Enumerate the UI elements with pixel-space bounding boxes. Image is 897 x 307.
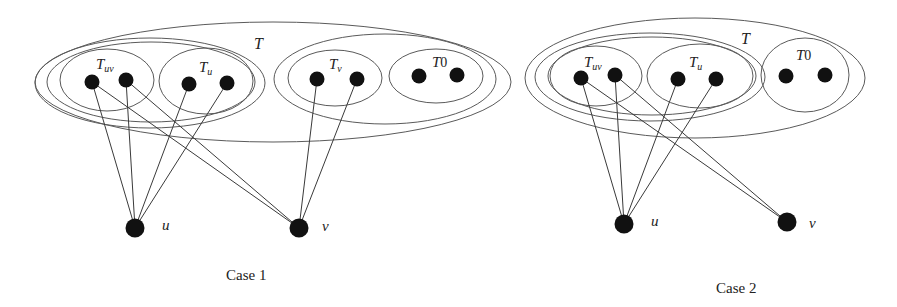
panel-case1: T Tuv Tu Tv T0	[35, 22, 511, 283]
vertex-tuv-2	[608, 68, 623, 83]
group-uv-u-outer-ellipse	[535, 33, 765, 121]
set-T0-label: T0	[432, 54, 447, 70]
caption-case1: Case 1	[226, 267, 266, 283]
diagram-canvas: T Tuv Tu Tv T0	[0, 0, 897, 307]
vertex-v-label: v	[322, 218, 329, 234]
vertex-v	[778, 213, 797, 232]
vertex-tu-2	[709, 72, 724, 87]
vertex-t0-1	[412, 69, 427, 84]
vertex-u	[126, 219, 145, 238]
set-Tuv-ellipse	[60, 49, 154, 111]
vertex-tv-2	[350, 72, 365, 87]
vertex-tuv-1	[85, 75, 100, 90]
set-Tu-ellipse	[159, 48, 253, 114]
edge	[126, 80, 135, 228]
set-Tu-label: Tu	[199, 59, 212, 77]
vertex-v	[290, 219, 309, 238]
set-T0-label: T0	[796, 47, 811, 63]
set-Tu-ellipse	[647, 44, 753, 108]
vertex-v-label: v	[809, 215, 816, 231]
vertex-t0-1	[779, 69, 794, 84]
vertex-tuv-2	[119, 73, 134, 88]
caption-case2: Case 2	[716, 280, 756, 296]
edge	[581, 78, 787, 222]
panel-case2: T Tuv Tu T0 u v Case 2	[525, 18, 865, 296]
vertex-tv-1	[310, 72, 325, 87]
vertex-t0-2	[450, 68, 465, 83]
vertex-u-label: u	[162, 217, 170, 233]
vertex-u-label: u	[651, 213, 659, 229]
edge	[615, 75, 624, 224]
set-T-label: T	[741, 30, 751, 47]
vertex-tu-2	[220, 76, 235, 91]
vertex-u	[615, 215, 634, 234]
vertex-tuv-1	[574, 71, 589, 86]
set-Tv-label: Tv	[329, 56, 342, 74]
edge	[581, 78, 624, 224]
edge	[126, 80, 299, 228]
edge	[615, 75, 787, 222]
set-Tuv-label: Tuv	[584, 54, 602, 72]
vertex-tu-1	[671, 72, 686, 87]
set-T-label: T	[254, 35, 264, 52]
set-Tuv-label: Tuv	[96, 56, 114, 74]
edge	[92, 82, 299, 228]
vertex-tu-1	[182, 77, 197, 92]
vertex-t0-2	[818, 68, 833, 83]
set-Tuv-ellipse	[550, 46, 642, 106]
edge	[92, 82, 135, 228]
set-Tu-label: Tu	[689, 54, 702, 72]
